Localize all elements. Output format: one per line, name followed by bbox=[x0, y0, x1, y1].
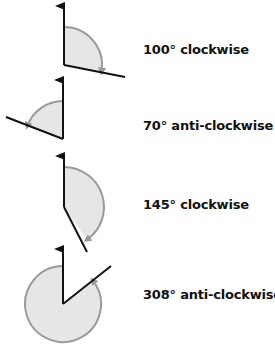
label-145-clockwise: 145° clockwise bbox=[143, 197, 249, 212]
label-100-clockwise: 100° clockwise bbox=[143, 42, 249, 57]
diagram-308-anticlockwise bbox=[25, 249, 111, 342]
diagram-100-clockwise bbox=[64, 6, 125, 77]
label-308-anticlockwise: 308° anti-clockwise bbox=[143, 287, 275, 302]
angle-fill bbox=[64, 27, 102, 72]
diagram-145-clockwise bbox=[64, 156, 104, 252]
label-70-anticlockwise: 70° anti-clockwise bbox=[143, 118, 273, 133]
angle-fill bbox=[27, 101, 63, 139]
diagram-70-anticlockwise bbox=[6, 80, 63, 139]
